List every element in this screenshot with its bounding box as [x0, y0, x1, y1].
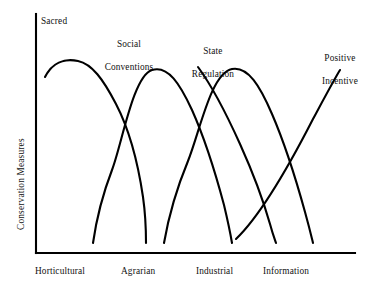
- annotation-sacred: Sacred: [41, 16, 67, 27]
- curve-sacred: [45, 60, 146, 243]
- figure-container: Conservation Measures Sacred Social Conv…: [0, 0, 382, 295]
- annotation-state-regulation: State Regulation: [172, 35, 244, 92]
- annotation-state-line2: Regulation: [192, 69, 234, 79]
- annotation-positive-incentive: Positive Incentive: [302, 42, 368, 99]
- annotation-social-conventions: Social Conventions: [88, 28, 160, 85]
- x-tick-information: Information: [263, 266, 309, 276]
- annotation-positive-line2: Incentive: [322, 76, 358, 86]
- curve-state-regulation: [164, 69, 313, 243]
- annotation-social-line2: Conventions: [105, 62, 154, 72]
- x-tick-industrial: Industrial: [196, 266, 233, 276]
- y-axis-title: Conservation Measures: [16, 138, 26, 230]
- annotation-social-line1: Social: [117, 39, 141, 49]
- x-tick-agrarian: Agrarian: [121, 266, 155, 276]
- annotation-state-line1: State: [203, 46, 222, 56]
- x-tick-horticultural: Horticultural: [35, 266, 85, 276]
- annotation-positive-line1: Positive: [324, 53, 355, 63]
